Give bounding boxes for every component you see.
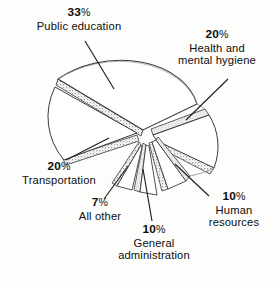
slice-label-health[interactable]: 20% Health and mental hygiene [160, 28, 274, 67]
slice-name-health: Health and mental hygiene [160, 42, 274, 68]
pie-chart-figure: 33% Public education 20% Health and ment… [0, 0, 274, 286]
slice-name-human-resources: Human resources [194, 204, 274, 230]
slice-label-all-other[interactable]: 7% All other [58, 196, 142, 222]
slice-name-all-other: All other [58, 210, 142, 223]
slice-name-general-administration: General administration [101, 237, 207, 263]
slice-label-human-resources[interactable]: 10% Human resources [194, 190, 274, 229]
slice-percent-transportation: 20% [0, 160, 118, 174]
slice-percent-human-resources: 10% [194, 190, 274, 204]
slice-percent-public-education: 33% [18, 6, 140, 20]
slice-name-public-education: Public education [18, 20, 140, 33]
slice-label-public-education[interactable]: 33% Public education [18, 6, 140, 32]
slice-label-transportation[interactable]: 20% Transportation [0, 160, 118, 186]
slice-percent-health: 20% [160, 28, 274, 42]
slice-name-transportation: Transportation [0, 174, 118, 187]
slice-percent-general-administration: 10% [101, 223, 207, 237]
slice-label-general-administration[interactable]: 10% General administration [101, 223, 207, 262]
slice-percent-all-other: 7% [58, 196, 142, 210]
